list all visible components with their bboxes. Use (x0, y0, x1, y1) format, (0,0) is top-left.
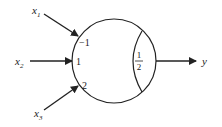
input-arrow-x3 (44, 86, 78, 110)
input-label-x2: x2 (14, 55, 24, 70)
weight-x3: 2 (82, 80, 87, 91)
weight-x1: −1 (79, 37, 90, 48)
input-arrow-x1 (44, 14, 78, 36)
input-label-x1: x1 (31, 4, 40, 19)
output-label-y: y (201, 55, 207, 67)
input-label-x3: x3 (33, 107, 43, 122)
threshold-denominator: 2 (137, 62, 142, 72)
weight-x2: 1 (76, 56, 81, 67)
neuron-diagram: x1 x2 x3 −1 1 2 1 2 y (0, 0, 222, 127)
threshold-numerator: 1 (137, 50, 142, 60)
